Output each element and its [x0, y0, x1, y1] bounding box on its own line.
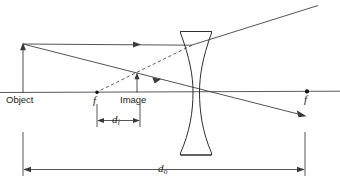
image-distance-symbol: d — [112, 113, 118, 125]
image-distance-label: di — [112, 114, 120, 127]
object-distance-symbol: d — [158, 162, 164, 174]
focal-point-right-label: f — [304, 94, 307, 105]
focal-point-left-label: f — [93, 95, 96, 106]
image-distance-subscript: i — [118, 118, 120, 127]
image-arrow — [135, 73, 140, 93]
lens-biconcave — [181, 32, 212, 156]
ray-parallel-incident — [23, 41, 192, 47]
lens-ray-diagram: Object Image f f di do — [0, 0, 340, 184]
object-arrow — [20, 43, 26, 93]
ray-through-center — [23, 44, 307, 117]
optical-axis — [0, 91, 340, 92]
diagram-canvas — [0, 0, 340, 184]
image-label: Image — [120, 95, 146, 105]
object-label: Object — [6, 95, 33, 105]
ray-virtual-extension — [97, 45, 193, 92]
object-distance-label: do — [158, 163, 168, 176]
object-distance-subscript: o — [164, 167, 168, 176]
ray-parallel-refracted — [192, 6, 319, 46]
